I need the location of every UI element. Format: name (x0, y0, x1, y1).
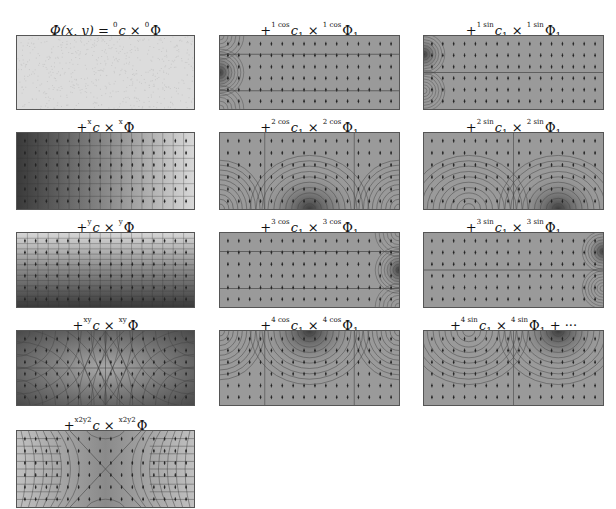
basis-superscript: 4 cos (323, 316, 341, 324)
coef-superscript: 4 cos (271, 316, 289, 324)
figure-cell-p8: +4 cosc1 × 4 cosΦ1 (219, 0, 400, 509)
field-plot-top-dome (219, 330, 400, 406)
basis-superscript: x2y2 (119, 416, 136, 424)
coef-superscript: x2y2 (75, 416, 92, 424)
field-plot-saddle-x2y2 (16, 430, 195, 508)
figure-cell-p4: +x2y2c × x2y2Φ (16, 0, 195, 509)
basis-superscript: 4 sin (511, 316, 528, 324)
coef-superscript: 4 sin (461, 316, 478, 324)
field-plot-top-dipole (423, 330, 604, 406)
figure-cell-p12: +4 sinc1 × 4 sinΦ1 + ··· (423, 0, 604, 509)
